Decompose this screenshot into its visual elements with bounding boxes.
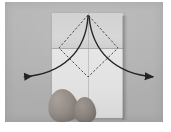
figure-canvas: Origami step: fold both top corners outw… bbox=[0, 0, 171, 132]
annotation-overlay bbox=[0, 0, 171, 132]
right-fold-arrow-path bbox=[89, 16, 153, 77]
motion-arrow-right bbox=[89, 16, 153, 77]
fold-guide-diamond-path bbox=[59, 15, 118, 77]
fold-guide-diamond bbox=[59, 15, 118, 77]
